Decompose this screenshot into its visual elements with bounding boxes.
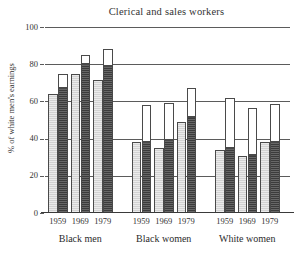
bar-light-black-men-1969: [71, 74, 81, 213]
bar-light-black-women-1969: [154, 148, 164, 213]
bar-cap-white-women-1979: [270, 104, 280, 142]
bar-cap-black-men-1959: [58, 74, 68, 89]
bar-dark-black-men-1959: [58, 88, 68, 213]
y-tick-label-100: 100: [8, 22, 38, 32]
y-tick-mark-80: [40, 64, 44, 65]
bar-dark-black-women-1969: [164, 140, 174, 213]
bar-light-black-women-1979: [177, 122, 187, 213]
bar-dark-black-women-1959: [142, 142, 152, 213]
bar-dark-black-men-1969: [81, 64, 91, 213]
bar-light-white-women-1979: [260, 142, 270, 213]
y-tick-mark-60: [40, 101, 44, 102]
y-tick-mark-100: [40, 27, 44, 28]
bar-cap-black-men-1969: [81, 55, 91, 64]
y-axis-label: % of white men's earnings: [6, 23, 16, 193]
gridline-100: [45, 27, 290, 28]
bar-light-white-women-1969: [238, 156, 248, 213]
y-tick-mark-40: [40, 139, 44, 140]
bar-light-black-men-1959: [48, 94, 58, 213]
group-label-black-men: Black men: [35, 233, 125, 244]
y-tick-mark-20: [40, 176, 44, 177]
bar-cap-white-women-1959: [225, 98, 235, 148]
bar-light-black-women-1959: [132, 142, 142, 213]
x-tick-label-black-women-1979: 1979: [170, 216, 202, 226]
bar-cap-black-women-1969: [164, 103, 174, 140]
bar-cap-black-men-1979: [103, 49, 113, 66]
group-label-black-women: Black women: [119, 233, 209, 244]
bar-cap-black-women-1979: [187, 88, 197, 117]
bar-dark-black-men-1979: [103, 66, 113, 213]
y-tick-label-60: 60: [8, 96, 38, 106]
plot-area: [45, 27, 290, 213]
chart-title: Clerical and sales workers: [0, 6, 307, 17]
bar-cap-white-women-1969: [248, 108, 258, 155]
x-tick-label-black-men-1979: 1979: [87, 216, 119, 226]
group-label-white-women: White women: [202, 233, 292, 244]
x-tick-label-white-women-1979: 1979: [254, 216, 286, 226]
bar-light-white-women-1959: [215, 150, 225, 213]
chart-figure: Clerical and sales workers % of white me…: [0, 0, 307, 259]
y-tick-label-20: 20: [8, 170, 38, 180]
y-tick-label-40: 40: [8, 133, 38, 143]
y-tick-label-0: 0: [8, 208, 38, 218]
bar-dark-white-women-1969: [248, 155, 258, 213]
bar-dark-white-women-1979: [270, 142, 280, 213]
bar-cap-black-women-1959: [142, 105, 152, 142]
bar-dark-white-women-1959: [225, 148, 235, 213]
x-axis-line: [41, 212, 294, 213]
y-tick-label-80: 80: [8, 59, 38, 69]
bar-dark-black-women-1979: [187, 117, 197, 213]
bar-light-black-men-1979: [93, 80, 103, 213]
